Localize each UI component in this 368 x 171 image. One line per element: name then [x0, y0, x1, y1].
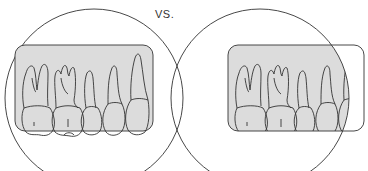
panel-film-offset — [171, 9, 364, 171]
panel-film-centered — [5, 9, 183, 171]
diagram-canvas — [0, 0, 368, 171]
film-rect-left — [15, 45, 153, 131]
